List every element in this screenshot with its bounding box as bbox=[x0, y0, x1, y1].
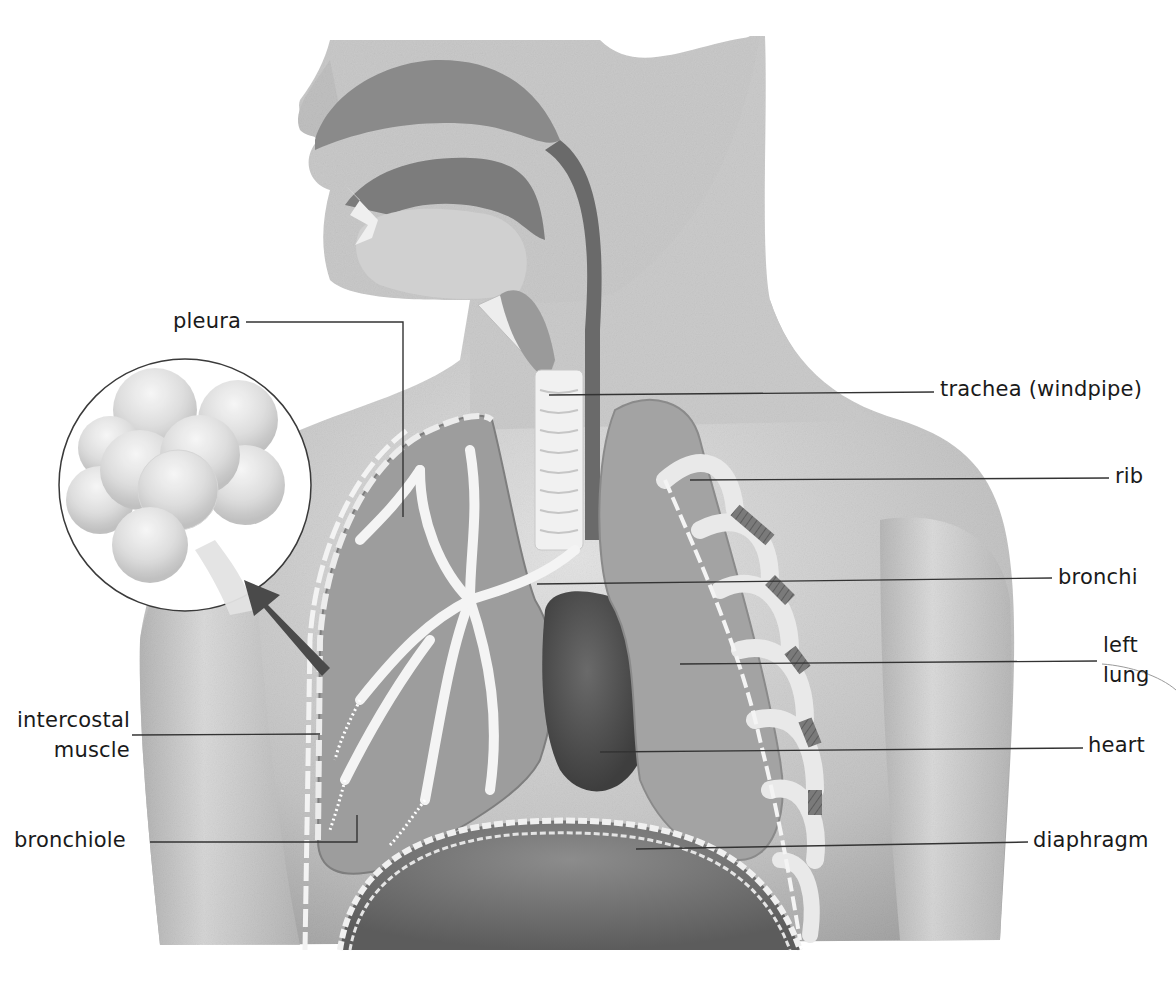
anatomy-illustration bbox=[0, 0, 1176, 983]
leader-line-intercostal bbox=[132, 734, 320, 735]
label-intercostal-line1: intercostal bbox=[8, 705, 130, 735]
label-bronchiole: bronchiole bbox=[14, 830, 126, 851]
label-bronchi: bronchi bbox=[1058, 567, 1138, 588]
label-left-lung: left lung bbox=[1103, 630, 1150, 690]
label-diaphragm: diaphragm bbox=[1033, 830, 1149, 851]
label-intercostal-line2: muscle bbox=[8, 735, 130, 765]
label-rib: rib bbox=[1115, 466, 1143, 487]
label-intercostal-muscle: intercostal muscle bbox=[8, 705, 130, 765]
label-left-lung-line2: lung bbox=[1103, 660, 1150, 690]
label-pleura: pleura bbox=[173, 311, 241, 332]
label-left-lung-line1: left bbox=[1103, 630, 1150, 660]
label-trachea: trachea (windpipe) bbox=[940, 379, 1142, 400]
label-heart: heart bbox=[1088, 735, 1145, 756]
respiratory-system-diagram: pleura intercostal muscle bronchiole tra… bbox=[0, 0, 1176, 983]
